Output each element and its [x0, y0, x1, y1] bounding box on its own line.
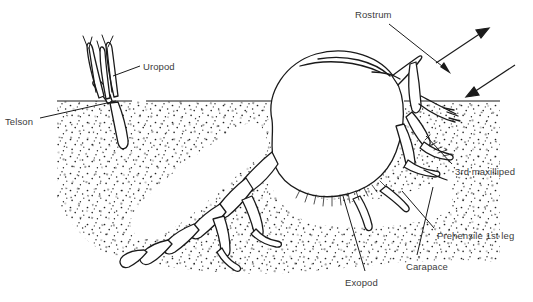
label-carapace: Carapace [406, 261, 448, 272]
anatomy-figure: Rostrum Uropod Telson 3rd maxilliped Pre… [0, 0, 533, 302]
sediment-region [0, 95, 533, 280]
label-uropod: Uropod [143, 61, 175, 72]
inhalant-current-arrow [466, 65, 515, 97]
label-rostrum: Rostrum [355, 9, 392, 20]
exhalant-current-arrow [436, 28, 489, 63]
uropod-leader [113, 66, 140, 76]
label-third-maxilliped: 3rd maxilliped [455, 166, 515, 177]
label-telson: Telson [5, 116, 33, 127]
antennal-peduncle [409, 62, 421, 113]
flow-arrows [436, 28, 515, 97]
anatomy-illustration [0, 0, 533, 302]
label-exopod: Exopod [345, 277, 378, 288]
label-prehensile-first-leg: Prehensile 1st leg [437, 230, 514, 241]
rostrum-leader-head [440, 62, 451, 74]
